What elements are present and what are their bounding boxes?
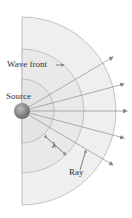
wave-diagram bbox=[0, 0, 132, 218]
wave-front-label: Wave front bbox=[7, 59, 47, 69]
source-label: Source bbox=[6, 91, 31, 101]
wavelength-label: λ bbox=[52, 140, 56, 150]
ray-label: Ray bbox=[69, 167, 84, 177]
source-icon bbox=[14, 103, 30, 119]
